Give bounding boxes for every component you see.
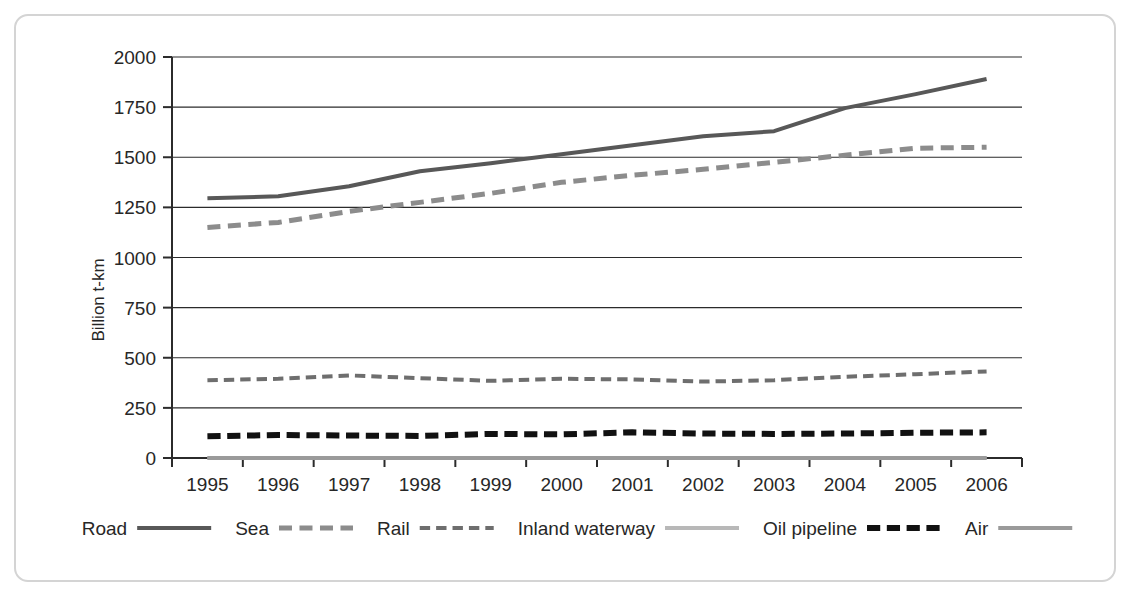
x-tick-label: 1998 xyxy=(399,474,441,495)
x-tick-label: 1999 xyxy=(470,474,512,495)
y-tick-label: 0 xyxy=(145,448,156,469)
chart-figure: Billion t-km 025050075010001250150017502… xyxy=(0,0,1132,601)
x-tick-label: 1996 xyxy=(257,474,299,495)
legend-label-inland-waterway: Inland waterway xyxy=(518,518,656,539)
x-tick-label: 2003 xyxy=(753,474,795,495)
series-line-oil-pipeline xyxy=(207,432,986,436)
y-tick-label: 2000 xyxy=(114,47,156,68)
y-tick-label: 750 xyxy=(124,298,156,319)
x-tick-label: 2004 xyxy=(824,474,867,495)
x-tick-label: 1995 xyxy=(186,474,228,495)
y-tick-label: 1750 xyxy=(114,97,156,118)
x-axis-ticks: 1995199619971998199920002001200220032004… xyxy=(172,458,1022,495)
y-axis-title: Billion t-km xyxy=(89,258,108,341)
legend-label-air: Air xyxy=(965,518,989,539)
legend-label-road: Road xyxy=(82,518,127,539)
x-tick-label: 2005 xyxy=(895,474,937,495)
y-tick-label: 1500 xyxy=(114,147,156,168)
legend-label-sea: Sea xyxy=(235,518,269,539)
y-axis-ticks: 025050075010001250150017502000 xyxy=(114,47,172,469)
y-axis-title-text: Billion t-km xyxy=(89,258,108,341)
gridlines xyxy=(172,57,1022,458)
data-series-layer xyxy=(207,79,986,458)
y-tick-label: 1250 xyxy=(114,197,156,218)
x-tick-label: 2006 xyxy=(965,474,1007,495)
line-chart: Billion t-km 025050075010001250150017502… xyxy=(0,0,1132,601)
x-tick-label: 2001 xyxy=(611,474,653,495)
series-line-sea xyxy=(207,147,986,227)
legend-label-oil-pipeline: Oil pipeline xyxy=(763,518,857,539)
legend-label-rail: Rail xyxy=(377,518,410,539)
x-tick-label: 2002 xyxy=(682,474,724,495)
x-tick-label: 1997 xyxy=(328,474,370,495)
chart-legend: RoadSeaRailInland waterwayOil pipelineAi… xyxy=(82,518,1073,539)
y-tick-label: 500 xyxy=(124,348,156,369)
y-tick-label: 1000 xyxy=(114,248,156,269)
series-line-rail xyxy=(207,371,986,381)
y-tick-label: 250 xyxy=(124,398,156,419)
x-tick-label: 2000 xyxy=(540,474,582,495)
